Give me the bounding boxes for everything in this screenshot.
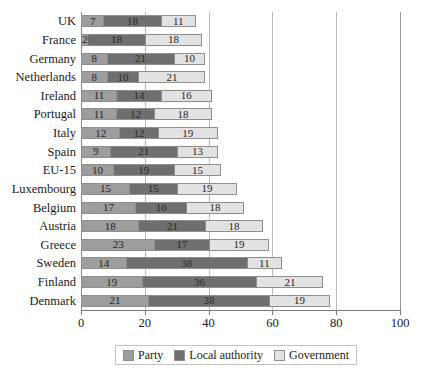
bar-segment-local: 21	[138, 220, 205, 232]
bar-segment-party: 15	[81, 183, 129, 195]
legend-swatch-local	[174, 350, 185, 361]
bar-segment-government: 16	[161, 90, 212, 102]
x-tick-label-80: 80	[330, 317, 343, 330]
bar-row: 111416	[81, 90, 400, 102]
gridline-100	[400, 12, 401, 310]
legend-swatch-government	[274, 350, 285, 361]
x-tick-0	[81, 310, 82, 315]
x-tick-80	[336, 310, 337, 315]
category-label-sweden: Sweden	[0, 257, 76, 270]
bar-segment-government: 13	[177, 146, 218, 158]
legend-swatch-party	[123, 350, 134, 361]
bar-segment-local: 16	[135, 202, 186, 214]
bar-row: 213819	[81, 295, 400, 307]
bar-segment-local: 18	[103, 15, 160, 27]
x-tick-20	[145, 310, 146, 315]
bar-segment-party: 12	[81, 127, 119, 139]
category-label-france: France	[0, 34, 76, 47]
bar-segment-government: 18	[205, 220, 262, 232]
bar-segment-local: 12	[116, 108, 154, 120]
bar-segment-government: 21	[138, 71, 205, 83]
stacked-bar-chart: UKFranceGermanyNetherlandsIrelandPortuga…	[0, 0, 429, 377]
bar-segment-government: 18	[145, 34, 202, 46]
category-label-germany: Germany	[0, 53, 76, 66]
bar-segment-party: 8	[81, 53, 107, 65]
x-tick-60	[272, 310, 273, 315]
bar-segment-government: 21	[256, 276, 323, 288]
bar-segment-party: 18	[81, 220, 138, 232]
bar-segment-party: 17	[81, 202, 135, 214]
bar-row: 182118	[81, 220, 400, 232]
x-axis-line	[81, 310, 401, 311]
bar-row: 231719	[81, 239, 400, 251]
bar-segment-local: 38	[126, 257, 247, 269]
bar-row: 82110	[81, 53, 400, 65]
bar-row: 21818	[81, 34, 400, 46]
x-tick-100	[400, 310, 401, 315]
bar-row: 121219	[81, 127, 400, 139]
category-label-denmark: Denmark	[0, 295, 76, 308]
category-label-finland: Finland	[0, 276, 76, 289]
bar-segment-government: 19	[158, 127, 219, 139]
bar-segment-government: 18	[186, 202, 243, 214]
bar-row: 71811	[81, 15, 400, 27]
bar-segment-party: 10	[81, 164, 113, 176]
bar-segment-party: 19	[81, 276, 142, 288]
bar-segment-local: 18	[87, 34, 144, 46]
bar-segment-local: 15	[129, 183, 177, 195]
bar-segment-local: 21	[107, 53, 174, 65]
legend-label-local: Local authority	[189, 349, 263, 361]
category-label-uk: UK	[0, 15, 76, 28]
bar-segment-government: 11	[161, 15, 196, 27]
category-axis-labels: UKFranceGermanyNetherlandsIrelandPortuga…	[0, 12, 76, 310]
bar-row: 101915	[81, 164, 400, 176]
bar-row: 151519	[81, 183, 400, 195]
bar-segment-local: 10	[107, 71, 139, 83]
bar-row: 143811	[81, 257, 400, 269]
bar-segment-party: 11	[81, 90, 116, 102]
bar-segment-government: 15	[174, 164, 222, 176]
legend-label-party: Party	[138, 349, 163, 361]
x-tick-label-20: 20	[139, 317, 152, 330]
legend-item-local: Local authority	[174, 349, 263, 361]
plot-area: 7181121818821108102111141611121812121992…	[81, 12, 400, 310]
bar-segment-party: 8	[81, 71, 107, 83]
category-label-austria: Austria	[0, 220, 76, 233]
category-label-luxembourg: Luxembourg	[0, 183, 76, 196]
bar-segment-party: 23	[81, 239, 154, 251]
category-label-eu-15: EU-15	[0, 164, 76, 177]
x-tick-label-40: 40	[202, 317, 215, 330]
bar-segment-party: 9	[81, 146, 110, 158]
category-label-italy: Italy	[0, 127, 76, 140]
bar-row: 193621	[81, 276, 400, 288]
bar-segment-local: 21	[110, 146, 177, 158]
bar-segment-government: 19	[269, 295, 330, 307]
category-label-portugal: Portugal	[0, 108, 76, 121]
bar-segment-local: 38	[148, 295, 269, 307]
x-tick-label-100: 100	[391, 317, 410, 330]
bar-segment-party: 21	[81, 295, 148, 307]
bar-segment-government: 19	[209, 239, 270, 251]
category-label-greece: Greece	[0, 239, 76, 252]
bar-segment-local: 17	[154, 239, 208, 251]
chart-legend: PartyLocal authorityGovernment	[115, 345, 357, 365]
bar-segment-government: 19	[177, 183, 238, 195]
category-label-ireland: Ireland	[0, 90, 76, 103]
bar-row: 81021	[81, 71, 400, 83]
category-label-spain: Spain	[0, 146, 76, 159]
bar-segment-government: 18	[154, 108, 211, 120]
bar-segment-government: 10	[174, 53, 206, 65]
legend-label-government: Government	[289, 349, 349, 361]
x-tick-label-60: 60	[266, 317, 279, 330]
bar-row: 171618	[81, 202, 400, 214]
x-tick-40	[209, 310, 210, 315]
x-tick-label-0: 0	[78, 317, 84, 330]
bar-segment-local: 36	[142, 276, 257, 288]
bar-segment-party: 14	[81, 257, 126, 269]
bar-rows: 7181121818821108102111141611121812121992…	[81, 12, 400, 310]
bar-segment-party: 11	[81, 108, 116, 120]
category-label-belgium: Belgium	[0, 202, 76, 215]
bar-segment-local: 14	[116, 90, 161, 102]
bar-row: 111218	[81, 108, 400, 120]
bar-row: 92113	[81, 146, 400, 158]
